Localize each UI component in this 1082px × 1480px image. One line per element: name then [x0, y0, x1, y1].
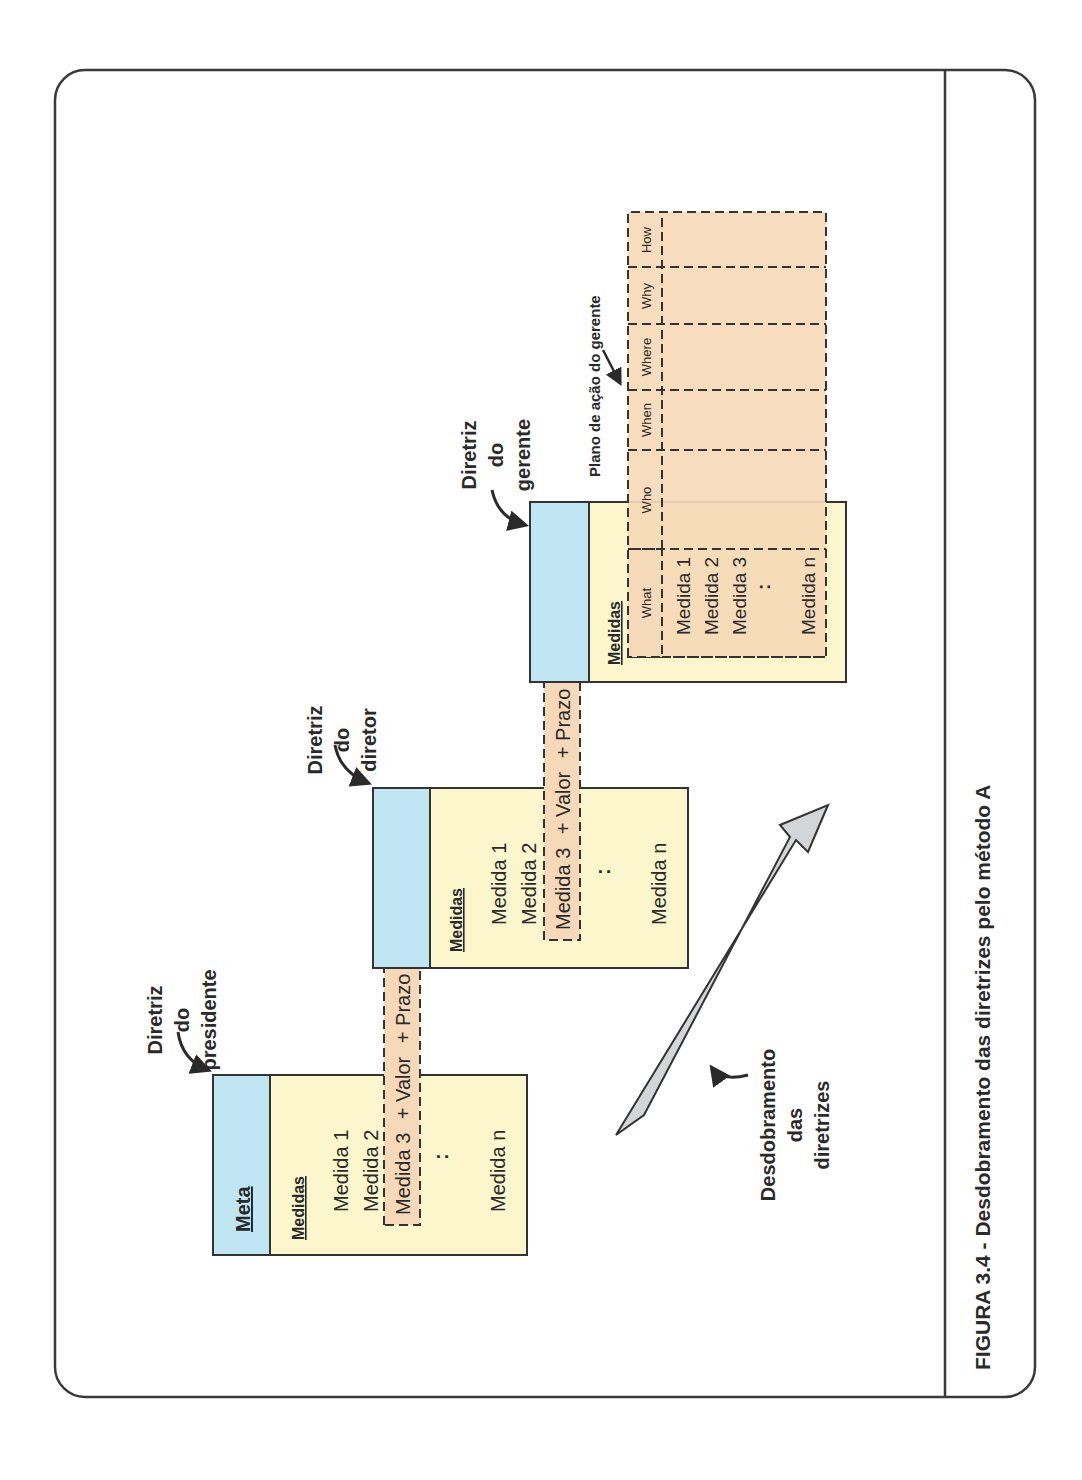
- svg-text:Desdobramento: Desdobramento: [757, 1049, 779, 1201]
- director-directive: Medidas Medida 1 Medida 2 : Medida n: [373, 788, 688, 968]
- figure-caption: FIGURA 3.4 - Desdobramento das diretrize…: [971, 785, 994, 1370]
- strip2-prazo: + Prazo: [552, 689, 574, 758]
- svg-text:Diretriz: Diretriz: [458, 421, 480, 490]
- svg-text:Diretriz: Diretriz: [304, 706, 326, 775]
- column-header-who: Who: [639, 487, 654, 514]
- svg-text:diretor: diretor: [358, 708, 380, 772]
- svg-text:gerente: gerente: [512, 419, 534, 491]
- president-medidas-heading: Medidas: [290, 1176, 307, 1240]
- figure-canvas: FIGURA 3.4 - Desdobramento das diretrize…: [0, 0, 1082, 1480]
- column-header-how: How: [639, 226, 654, 253]
- svg-text:Diretriz: Diretriz: [144, 986, 166, 1055]
- svg-text:presidente: presidente: [198, 969, 220, 1070]
- manager-medida-2: Medida 2: [701, 557, 722, 635]
- svg-text:Plano de ação do gerente: Plano de ação do gerente: [586, 295, 603, 477]
- manager-medidas-heading: Medidas: [606, 601, 623, 665]
- svg-text:das: das: [784, 1108, 806, 1142]
- president-medida-n: Medida n: [487, 1130, 509, 1212]
- president-meta-label: Meta: [232, 1186, 254, 1232]
- manager-meta-header: [530, 502, 589, 682]
- column-header-what: What: [639, 587, 654, 618]
- strip2-valor: + Valor: [552, 771, 574, 834]
- director-medida-2: Medida 2: [518, 843, 540, 925]
- manager-medida-1: Medida 1: [673, 557, 694, 635]
- director-ellipsis: :: [592, 868, 614, 875]
- manager-ellipsis: :: [753, 584, 774, 590]
- column-header-why: Why: [639, 283, 654, 310]
- director-meta-header: [373, 788, 430, 968]
- president-medida-1: Medida 1: [330, 1130, 352, 1212]
- svg-text:do: do: [485, 443, 507, 467]
- column-header-when: When: [639, 403, 654, 437]
- manager-medida-n: Medida n: [798, 557, 819, 635]
- director-medida-1: Medida 1: [488, 843, 510, 925]
- svg-text:do: do: [171, 1008, 193, 1032]
- action-plan-table: What Who When Where Why How Medida 1 Med…: [628, 212, 826, 657]
- strip1-medida: Medida 3: [392, 1133, 414, 1215]
- strip2-medida: Medida 3: [552, 848, 574, 930]
- manager-medida-3: Medida 3: [729, 557, 750, 635]
- director-medidas-heading: Medidas: [448, 888, 465, 952]
- president-ellipsis: :: [430, 1153, 452, 1160]
- director-medida-n: Medida n: [648, 843, 670, 925]
- president-medida-2: Medida 2: [360, 1130, 382, 1212]
- president-directive: Meta Medidas Medida 1 Medida 2 : Medida …: [213, 1075, 527, 1255]
- column-header-where: Where: [639, 338, 654, 376]
- strip1-prazo: + Prazo: [392, 974, 414, 1043]
- svg-text:diretrizes: diretrizes: [811, 1081, 833, 1170]
- strip1-valor: + Valor: [392, 1056, 414, 1119]
